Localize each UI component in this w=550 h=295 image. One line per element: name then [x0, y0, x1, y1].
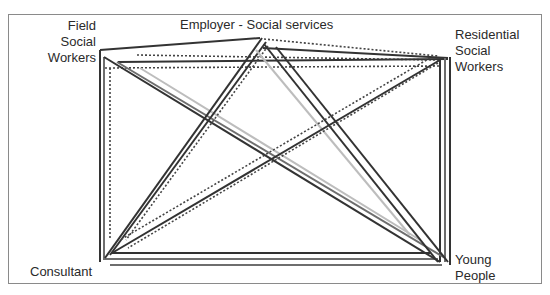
relationship-line-dark — [276, 47, 448, 262]
residential-line-1: Residential — [455, 27, 519, 43]
residential-line-2: Social — [455, 43, 519, 59]
field-line-2: Social — [40, 34, 96, 50]
relationship-line-dark — [100, 38, 260, 50]
young-line-2: People — [455, 268, 495, 284]
node-label-residential-social-workers: Residential Social Workers — [455, 27, 519, 75]
node-label-consultant: Consultant — [30, 264, 92, 280]
relationship-line-dotted — [128, 63, 438, 248]
relationship-line-light — [256, 50, 410, 235]
relationship-line-mid — [117, 62, 445, 258]
node-label-field-social-workers: Field Social Workers — [40, 18, 96, 66]
young-line-1: Young — [455, 252, 495, 268]
node-label-young-people: Young People — [455, 252, 495, 284]
relationship-line-dotted — [105, 66, 440, 68]
residential-line-3: Workers — [455, 59, 519, 75]
field-line-1: Field — [40, 18, 96, 34]
node-label-employer: Employer - Social services — [180, 17, 333, 33]
relationship-line-dark — [118, 59, 448, 62]
relationship-line-dark — [263, 48, 448, 58]
field-line-3: Workers — [40, 50, 96, 66]
